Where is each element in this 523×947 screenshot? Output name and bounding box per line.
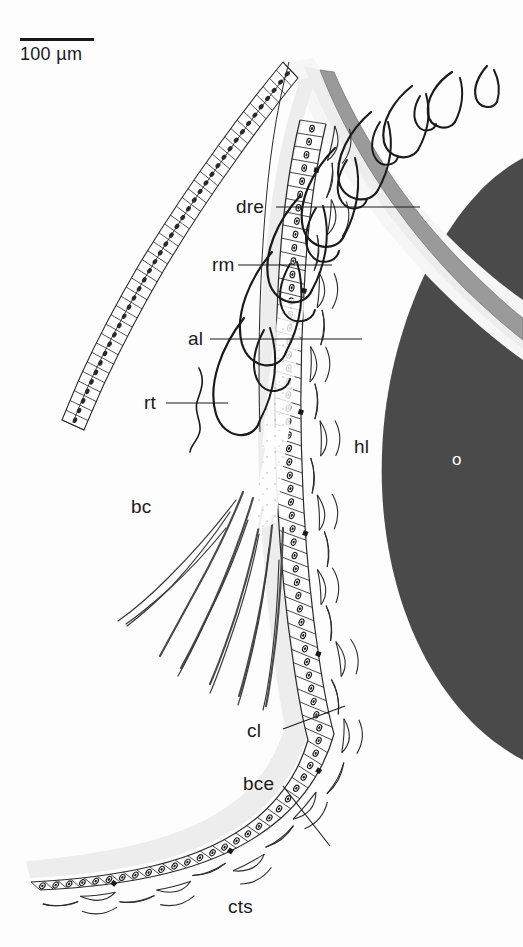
label-o: o <box>452 450 462 470</box>
label-cl: cl <box>247 720 261 742</box>
label-dre: dre <box>236 196 264 218</box>
label-bc: bc <box>131 496 151 518</box>
label-rt: rt <box>144 392 156 414</box>
scale-bar-label: 100 µm <box>20 44 94 65</box>
label-al: al <box>188 328 203 350</box>
label-rm: rm <box>212 254 235 276</box>
label-bce: bce <box>243 773 274 795</box>
label-cts: cts <box>228 896 253 918</box>
scale-bar: 100 µm <box>20 38 94 65</box>
figure-root: 100 µm dre rm al rt bc hl o cl bce cts <box>0 0 523 947</box>
scale-bar-line <box>20 38 94 41</box>
histology-diagram <box>0 0 523 947</box>
label-hl: hl <box>354 436 369 458</box>
